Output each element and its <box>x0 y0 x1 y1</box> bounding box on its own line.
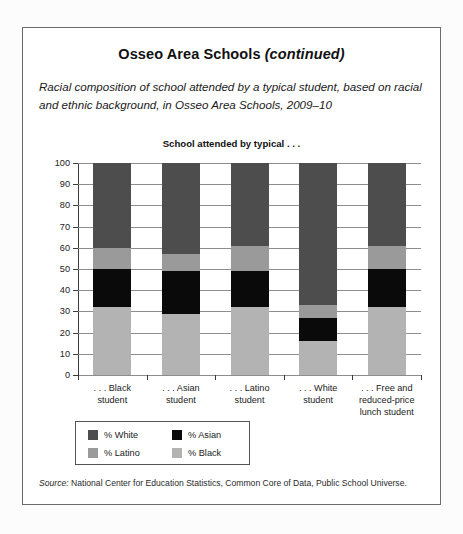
y-tick-mark <box>73 311 78 312</box>
y-tick-label: 30 <box>60 306 70 316</box>
bar-segment-black[interactable] <box>368 307 406 375</box>
bar-segment-black[interactable] <box>162 314 200 375</box>
bar-segment-black[interactable] <box>231 307 269 375</box>
bars-container <box>78 163 421 375</box>
y-tick-label: 100 <box>55 158 70 168</box>
bar-segment-latino[interactable] <box>93 248 131 269</box>
y-tick-label: 70 <box>60 222 70 232</box>
bar-segment-white[interactable] <box>368 163 406 246</box>
gridline <box>78 375 421 376</box>
page-title-main: Osseo Area Schools <box>118 46 264 62</box>
bar-segment-asian[interactable] <box>162 271 200 313</box>
legend-item[interactable]: % Latino <box>88 448 140 458</box>
legend-label: % Latino <box>104 448 140 458</box>
y-tick-label: 10 <box>60 349 70 359</box>
page-title: Osseo Area Schools (continued) <box>23 46 440 62</box>
page-canvas: Osseo Area Schools (continued) Racial co… <box>0 0 463 534</box>
figure-subtitle: Racial composition of school attended by… <box>39 78 427 114</box>
legend-swatch-icon <box>172 448 182 458</box>
source-label: Source: <box>39 478 69 488</box>
bar-segment-asian[interactable] <box>231 271 269 307</box>
y-tick-mark <box>73 205 78 206</box>
y-tick-mark <box>73 269 78 270</box>
bar-segment-asian[interactable] <box>93 269 131 307</box>
chart-title: School attended by typical . . . <box>23 138 440 149</box>
y-tick-mark <box>73 227 78 228</box>
legend-label: % Black <box>188 448 221 458</box>
y-tick-mark <box>73 184 78 185</box>
bar-segment-white[interactable] <box>231 163 269 246</box>
bar-segment-latino[interactable] <box>299 305 337 318</box>
bar-segment-white[interactable] <box>162 163 200 254</box>
bar-segment-asian[interactable] <box>299 318 337 341</box>
source-text: National Center for Education Statistics… <box>69 478 407 488</box>
y-tick-mark <box>73 163 78 164</box>
x-axis-category-label: . . . Free andreduced-pricelunch student <box>339 382 435 418</box>
bar-segment-white[interactable] <box>299 163 337 305</box>
bar-segment-black[interactable] <box>93 307 131 375</box>
y-tick-mark <box>73 354 78 355</box>
x-axis-label-line: lunch student <box>339 406 435 418</box>
x-tick-mark <box>284 375 285 380</box>
x-tick-mark <box>352 375 353 380</box>
y-tick-label: 40 <box>60 285 70 295</box>
legend-item[interactable]: % White <box>88 430 138 440</box>
bar-segment-asian[interactable] <box>368 269 406 307</box>
x-tick-mark <box>215 375 216 380</box>
y-tick-label: 0 <box>65 370 70 380</box>
y-tick-label: 20 <box>60 328 70 338</box>
source-note: Source: National Center for Education St… <box>39 478 429 488</box>
bar-segment-latino[interactable] <box>162 254 200 271</box>
x-tick-mark <box>78 375 79 380</box>
x-axis-label-line: reduced-price <box>339 394 435 406</box>
stacked-bar[interactable] <box>368 163 406 375</box>
figure-card: Osseo Area Schools (continued) Racial co… <box>22 27 441 505</box>
stacked-bar[interactable] <box>231 163 269 375</box>
chart-plot-area: 1009080706050403020100 . . . Blackstuden… <box>33 158 433 418</box>
y-tick-mark <box>73 290 78 291</box>
stacked-bar[interactable] <box>299 163 337 375</box>
bar-segment-black[interactable] <box>299 341 337 375</box>
legend-swatch-icon <box>88 448 98 458</box>
bar-segment-latino[interactable] <box>368 246 406 269</box>
legend-label: % Asian <box>188 430 221 440</box>
legend-swatch-icon <box>88 430 98 440</box>
y-tick-label: 50 <box>60 264 70 274</box>
y-tick-label: 80 <box>60 200 70 210</box>
x-tick-mark <box>147 375 148 380</box>
stacked-bar[interactable] <box>162 163 200 375</box>
legend-label: % White <box>104 430 138 440</box>
x-tick-mark <box>421 375 422 380</box>
stacked-bar[interactable] <box>93 163 131 375</box>
legend-item[interactable]: % Asian <box>172 430 221 440</box>
bar-segment-white[interactable] <box>93 163 131 248</box>
y-tick-label: 90 <box>60 179 70 189</box>
chart-legend: % White% Asian% Latino% Black <box>75 421 250 465</box>
legend-swatch-icon <box>172 430 182 440</box>
y-tick-label: 60 <box>60 243 70 253</box>
x-axis-label-line: . . . Free and <box>339 382 435 394</box>
bar-segment-latino[interactable] <box>231 246 269 271</box>
y-tick-mark <box>73 248 78 249</box>
y-tick-mark <box>73 333 78 334</box>
legend-item[interactable]: % Black <box>172 448 221 458</box>
page-title-continued: (continued) <box>265 46 345 62</box>
